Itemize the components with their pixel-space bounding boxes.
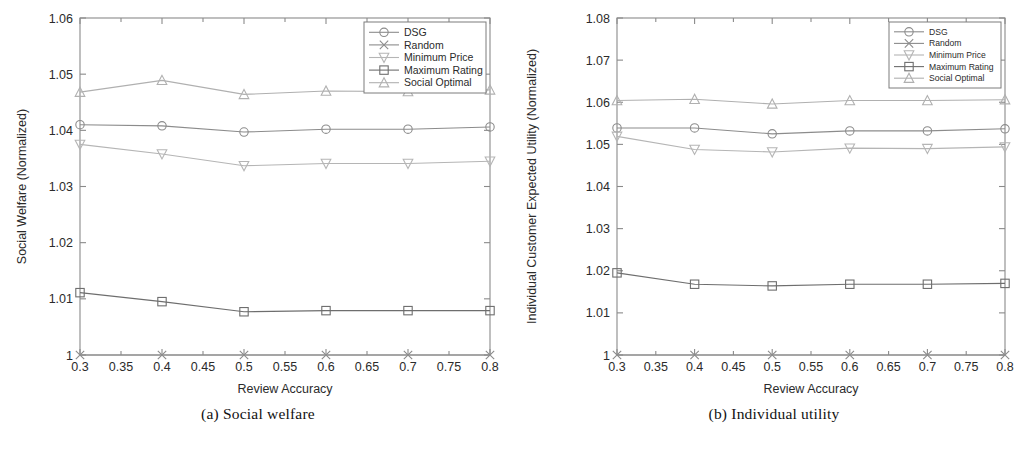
x-tick-label: 0.8 <box>996 360 1013 374</box>
series-social-optimal <box>612 94 1010 108</box>
x-tick-label: 0.45 <box>721 360 745 374</box>
y-tick-label: 1.03 <box>49 180 73 194</box>
series-minimum-price <box>612 132 1010 157</box>
y-tick-label: 1.04 <box>49 124 73 138</box>
y-tick-label: 1.02 <box>586 264 610 278</box>
series-line <box>617 99 1005 104</box>
y-tick-label: 1 <box>66 349 73 363</box>
legend-label: Random <box>404 39 444 51</box>
y-tick-label: 1.07 <box>586 54 610 68</box>
x-tick-label: 0.3 <box>71 360 88 374</box>
panel-social-welfare: 0.30.350.40.450.50.550.60.650.70.750.811… <box>0 0 516 471</box>
panel-caption-a: (a) Social welfare <box>0 405 516 423</box>
x-tick-label: 0.4 <box>686 360 703 374</box>
legend-label: Minimum Price <box>929 50 986 60</box>
series-minimum-price <box>75 140 495 171</box>
x-axis-title: Review Accuracy <box>763 382 859 396</box>
chart-social-welfare: 0.30.350.40.450.50.550.60.650.70.750.811… <box>0 0 516 400</box>
y-tick-label: 1 <box>603 349 610 363</box>
series-maximum-rating <box>613 269 1009 290</box>
y-tick-label: 1.02 <box>49 236 73 250</box>
y-tick-label: 1.05 <box>586 138 610 152</box>
y-tick-label: 1.08 <box>586 12 610 26</box>
y-axis-title: Social Welfare (Normalized) <box>15 109 29 264</box>
x-tick-label: 0.3 <box>608 360 625 374</box>
y-tick-label: 1.03 <box>586 222 610 236</box>
x-tick-label: 0.8 <box>481 360 498 374</box>
figure-container: 0.30.350.40.450.50.550.60.650.70.750.811… <box>0 0 1032 471</box>
x-tick-label: 0.6 <box>841 360 858 374</box>
panel-individual-utility: 0.30.350.40.450.50.550.60.650.70.750.811… <box>516 0 1032 471</box>
series-line <box>617 273 1005 286</box>
legend-label: Social Optimal <box>929 73 984 83</box>
series-line <box>80 293 490 312</box>
y-tick-label: 1.06 <box>49 12 73 26</box>
panel-caption-b: (b) Individual utility <box>516 405 1032 423</box>
x-tick-label: 0.75 <box>954 360 978 374</box>
y-axis-title: Individual Customer Expected Utility (No… <box>525 49 539 324</box>
x-tick-label: 0.7 <box>399 360 416 374</box>
y-tick-label: 1.06 <box>586 96 610 110</box>
legend: DSGRandomMinimum PriceMaximum RatingSoci… <box>889 22 1001 88</box>
series-line <box>617 128 1005 134</box>
x-tick-label: 0.35 <box>109 360 133 374</box>
legend-label: DSG <box>929 27 948 37</box>
legend-label: Random <box>929 38 961 48</box>
series-dsg <box>76 121 494 137</box>
x-tick-label: 0.4 <box>153 360 170 374</box>
x-tick-label: 0.55 <box>273 360 297 374</box>
x-tick-label: 0.75 <box>437 360 461 374</box>
chart-svg-individual-utility: 0.30.350.40.450.50.550.60.650.70.750.811… <box>516 0 1032 400</box>
chart-svg-social-welfare: 0.30.350.40.450.50.550.60.650.70.750.811… <box>0 0 516 400</box>
legend-label: Maximum Rating <box>929 62 994 72</box>
x-tick-label: 0.65 <box>355 360 379 374</box>
y-tick-label: 1.05 <box>49 68 73 82</box>
x-tick-label: 0.55 <box>799 360 823 374</box>
x-axis-title: Review Accuracy <box>237 382 333 396</box>
x-tick-label: 0.35 <box>644 360 668 374</box>
x-tick-label: 0.6 <box>317 360 334 374</box>
series-maximum-rating <box>76 288 494 315</box>
x-tick-label: 0.7 <box>919 360 936 374</box>
legend-label: Maximum Rating <box>404 64 483 76</box>
x-tick-label: 0.45 <box>191 360 215 374</box>
series-dsg <box>613 124 1009 138</box>
x-tick-label: 0.5 <box>235 360 252 374</box>
series-line <box>80 144 490 165</box>
series-line <box>80 125 490 132</box>
x-tick-label: 0.5 <box>764 360 781 374</box>
legend: DSGRandomMinimum PriceMaximum RatingSoci… <box>364 22 486 93</box>
legend-label: Social Optimal <box>404 76 472 88</box>
x-tick-label: 0.65 <box>876 360 900 374</box>
y-tick-label: 1.01 <box>586 306 610 320</box>
y-tick-label: 1.04 <box>586 180 610 194</box>
legend-label: Minimum Price <box>404 51 474 63</box>
y-tick-label: 1.01 <box>49 292 73 306</box>
series-line <box>617 136 1005 152</box>
chart-individual-utility: 0.30.350.40.450.50.550.60.650.70.750.811… <box>516 0 1032 400</box>
legend-label: DSG <box>404 26 427 38</box>
